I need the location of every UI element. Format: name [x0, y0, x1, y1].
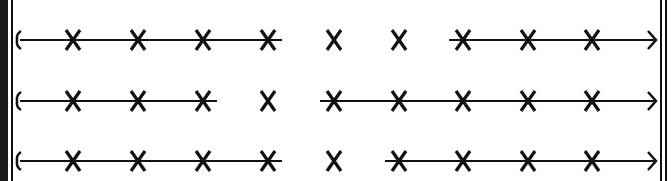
right-frame-line-outer: [665, 0, 667, 181]
diagram-row: [17, 91, 656, 111]
x-mark: [327, 30, 341, 50]
diagram-canvas: [0, 0, 671, 181]
frame: [0, 0, 667, 181]
diagram-row: [17, 30, 656, 50]
x-mark: [392, 30, 406, 50]
diagram-row: [17, 151, 656, 171]
right-frame-line-inner: [660, 0, 662, 181]
left-dark-band: [0, 0, 8, 181]
rows-group: [17, 30, 656, 171]
x-mark: [327, 151, 341, 171]
left-frame-line: [11, 0, 13, 181]
x-mark: [261, 91, 275, 111]
